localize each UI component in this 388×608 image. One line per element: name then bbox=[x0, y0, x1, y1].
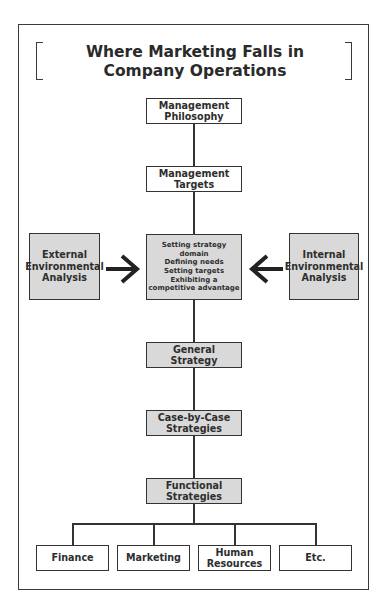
case-by-case-box: Case-by-CaseStrategies bbox=[146, 410, 242, 436]
connector-philosophy-targets bbox=[193, 124, 195, 166]
branch-drop-etc bbox=[315, 523, 317, 545]
branch-drop-marketing bbox=[153, 523, 155, 545]
management-targets-box: ManagementTargets bbox=[146, 166, 242, 192]
arrow-right-icon bbox=[104, 253, 142, 285]
function-box-human-resources: HumanResources bbox=[198, 545, 271, 571]
branch-drop-finance bbox=[72, 523, 74, 545]
branch-drop-hr bbox=[234, 523, 236, 545]
management-philosophy-box: ManagementPhilosophy bbox=[146, 98, 242, 124]
core-activities-box: Setting strategy domain Defining needs S… bbox=[146, 234, 242, 300]
functional-strategies-box: FunctionalStrategies bbox=[146, 478, 242, 504]
general-strategy-box: GeneralStrategy bbox=[146, 342, 242, 368]
function-box-marketing: Marketing bbox=[117, 545, 190, 571]
connector-case-functional bbox=[193, 436, 195, 478]
external-analysis-box: ExternalEnvironmentalAnalysis bbox=[29, 233, 100, 300]
left-bracket bbox=[36, 42, 43, 80]
arrow-left-icon bbox=[247, 253, 285, 285]
right-bracket bbox=[345, 42, 352, 80]
function-box-finance: Finance bbox=[36, 545, 109, 571]
function-box-etc: Etc. bbox=[279, 545, 352, 571]
branch-horizontal bbox=[72, 523, 316, 525]
connector-core-general bbox=[193, 300, 195, 342]
diagram-title: Where Marketing Falls in Company Operati… bbox=[60, 43, 330, 81]
title-line-2: Company Operations bbox=[60, 62, 330, 81]
connector-general-case bbox=[193, 368, 195, 410]
internal-analysis-box: InternalEnvironmentalAnalysis bbox=[289, 233, 359, 300]
connector-targets-core bbox=[193, 192, 195, 234]
title-line-1: Where Marketing Falls in bbox=[60, 43, 330, 62]
connector-functional-branch bbox=[193, 504, 195, 524]
